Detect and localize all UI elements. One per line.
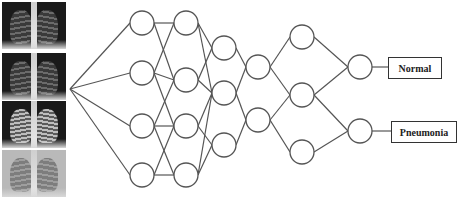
input-edge — [70, 89, 130, 175]
neuron-node — [212, 81, 236, 105]
input-edge — [70, 23, 130, 89]
input-edge — [70, 73, 130, 89]
neuron-node — [348, 55, 372, 79]
output-label-normal-text: Normal — [399, 63, 432, 74]
neuron-node — [130, 114, 154, 138]
neuron-node — [174, 114, 198, 138]
hidden-edge — [236, 93, 246, 120]
neuron-node — [212, 133, 236, 157]
neuron-node — [290, 140, 314, 164]
neuron-node — [130, 61, 154, 85]
hidden-edge — [236, 67, 246, 93]
hidden-edge — [236, 120, 246, 145]
neuron-node — [174, 163, 198, 187]
hidden-edge — [236, 48, 246, 67]
input-edge — [70, 89, 130, 126]
output-label-pneumonia-text: Pneumonia — [400, 127, 448, 138]
hidden-edge — [314, 95, 348, 131]
hidden-edge — [314, 131, 348, 152]
hidden-edge — [270, 67, 290, 95]
neural-network-graph — [0, 0, 465, 221]
neuron-node — [130, 163, 154, 187]
neuron-node — [246, 108, 270, 132]
neuron-node — [174, 11, 198, 35]
hidden-edge — [198, 93, 212, 175]
neuron-node — [212, 36, 236, 60]
neuron-node — [174, 68, 198, 92]
hidden-edge — [314, 67, 348, 95]
output-label-normal: Normal — [388, 57, 442, 79]
neuron-node — [290, 25, 314, 49]
hidden-edge — [154, 73, 174, 80]
hidden-edge — [198, 93, 212, 126]
hidden-edge — [314, 37, 348, 67]
neuron-node — [348, 119, 372, 143]
neuron-node — [130, 11, 154, 35]
hidden-edge — [270, 37, 290, 67]
hidden-edge — [270, 95, 290, 120]
output-label-pneumonia: Pneumonia — [391, 121, 457, 143]
hidden-edge — [270, 120, 290, 152]
neuron-node — [290, 83, 314, 107]
hidden-edge — [198, 48, 212, 80]
neuron-node — [246, 55, 270, 79]
